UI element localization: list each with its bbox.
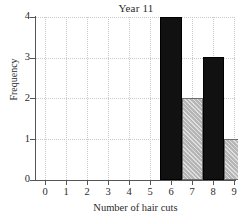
y-tick-label-0: 0 [16,174,30,184]
frequency-histogram-chart: Year 11 4 3 2 1 0 [0,0,238,220]
bar-6 [160,17,182,180]
gridline-vertical-5 [150,17,151,180]
x-tick-mark-2 [87,180,88,185]
x-tick-mark-1 [66,180,67,185]
plot-area [36,17,235,180]
y-tick-label-4: 4 [16,11,30,21]
y-tick-mark-0 [30,180,35,181]
x-tick-mark-5 [150,180,151,185]
x-tick-mark-9 [234,180,235,185]
x-axis-title: Number of hair cuts [36,202,235,213]
gridline-vertical-0 [45,17,46,180]
y-tick-label-1: 1 [16,134,30,144]
x-tick-mark-8 [213,180,214,185]
gridline-vertical-4 [129,17,130,180]
gridline-vertical-2 [87,17,88,180]
x-tick-label-5: 5 [142,186,158,197]
x-tick-label-0: 0 [37,186,53,197]
bar-7 [182,98,203,180]
x-tick-label-1: 1 [58,186,74,197]
y-axis-line [35,16,36,181]
bar-9 [224,139,238,180]
x-tick-mark-6 [171,180,172,185]
bar-8 [203,57,224,180]
y-tick-mark-1 [30,139,35,140]
x-tick-mark-4 [129,180,130,185]
x-tick-mark-7 [192,180,193,185]
x-tick-label-7: 7 [184,186,200,197]
y-tick-mark-3 [30,58,35,59]
y-tick-mark-4 [30,17,35,18]
y-tick-mark-2 [30,98,35,99]
x-tick-label-2: 2 [79,186,95,197]
chart-title: Year 11 [36,2,236,14]
x-tick-label-3: 3 [100,186,116,197]
x-tick-mark-3 [108,180,109,185]
y-axis-title: Frequency [8,25,19,135]
x-tick-label-9: 9 [226,186,238,197]
x-tick-label-4: 4 [121,186,137,197]
x-tick-label-8: 8 [205,186,221,197]
x-tick-label-6: 6 [163,186,179,197]
gridline-vertical-3 [108,17,109,180]
gridline-vertical-1 [66,17,67,180]
x-tick-mark-0 [45,180,46,185]
